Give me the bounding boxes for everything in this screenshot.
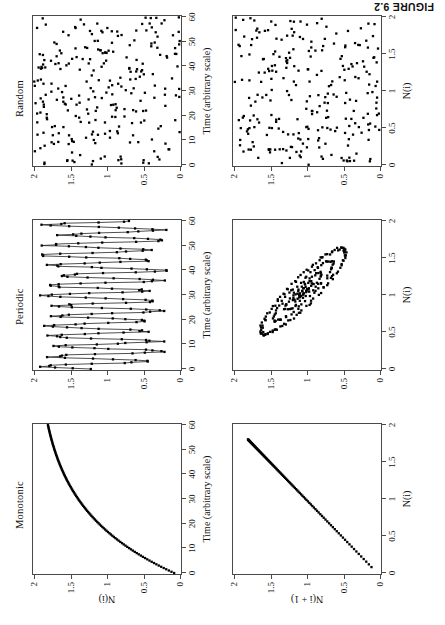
y-tick-mark	[344, 167, 345, 171]
x-tick-label: 30	[187, 291, 197, 300]
plot-area-periodic-timeseries	[32, 219, 182, 371]
x-tick-mark	[382, 220, 386, 221]
y-tick-mark	[34, 575, 35, 579]
x-tick-mark	[182, 572, 186, 573]
y-tick-label: 0.5	[139, 174, 149, 185]
y-tick-label: 2	[229, 174, 239, 179]
x-axis-title: Time (arbitrary scale)	[201, 48, 212, 135]
y-tick-mark	[144, 371, 145, 375]
y-tick-mark	[34, 371, 35, 375]
panel-random-returnmap	[232, 15, 382, 167]
x-tick-label: 10	[187, 136, 197, 145]
panel-title-periodic: Periodic	[14, 288, 25, 325]
x-axis-title: Time (arbitrary scale)	[201, 252, 212, 339]
panel-periodic-timeseries	[32, 219, 182, 371]
y-tick-label: 0	[175, 378, 185, 383]
x-tick-mark	[382, 498, 386, 499]
x-tick-mark	[182, 90, 186, 91]
x-tick-mark	[182, 449, 186, 450]
x-tick-mark	[382, 16, 386, 17]
x-tick-mark	[182, 164, 186, 165]
y-tick-mark	[234, 371, 235, 375]
x-tick-mark	[182, 41, 186, 42]
panel-periodic-returnmap	[232, 219, 382, 371]
x-tick-mark	[182, 343, 186, 344]
x-tick-mark	[182, 294, 186, 295]
y-tick-label: 1	[302, 378, 312, 383]
y-tick-mark	[344, 371, 345, 375]
x-tick-label: 1	[387, 89, 397, 94]
x-tick-label: 0	[387, 571, 397, 576]
x-axis-title: N(i)	[401, 287, 412, 304]
x-tick-mark	[382, 257, 386, 258]
x-tick-mark	[382, 53, 386, 54]
y-tick-mark	[234, 575, 235, 579]
x-tick-label: 1.5	[387, 456, 397, 467]
x-tick-label: 1.5	[387, 252, 397, 263]
y-tick-mark	[307, 167, 308, 171]
x-tick-label: 0	[387, 163, 397, 168]
y-tick-mark	[271, 371, 272, 375]
y-tick-label: 0	[375, 582, 385, 587]
x-tick-label: 0	[187, 163, 197, 168]
y-tick-mark	[380, 167, 381, 171]
y-tick-label: 0.5	[139, 582, 149, 593]
y-tick-label: 0	[175, 174, 185, 179]
x-tick-label: 50	[187, 37, 197, 46]
x-tick-label: 1.5	[387, 48, 397, 59]
x-tick-label: 1	[387, 497, 397, 502]
x-tick-label: 0	[187, 571, 197, 576]
y-tick-label: 2	[29, 174, 39, 179]
y-tick-label: 1	[102, 174, 112, 179]
x-tick-mark	[382, 127, 386, 128]
panel-monotonic-returnmap	[232, 423, 382, 575]
y-tick-mark	[180, 167, 181, 171]
x-tick-label: 60	[187, 217, 197, 226]
y-tick-label: 1.5	[66, 174, 76, 185]
x-tick-mark	[182, 220, 186, 221]
y-tick-label: 0.5	[339, 582, 349, 593]
x-tick-label: 10	[187, 544, 197, 553]
x-tick-mark	[182, 65, 186, 66]
y-tick-mark	[144, 575, 145, 579]
y-tick-mark	[271, 167, 272, 171]
y-tick-label: 2	[29, 582, 39, 587]
y-tick-mark	[271, 575, 272, 579]
x-tick-label: 20	[187, 519, 197, 528]
x-tick-mark	[382, 294, 386, 295]
y-tick-mark	[144, 167, 145, 171]
x-tick-mark	[182, 473, 186, 474]
y-tick-mark	[107, 371, 108, 375]
y-tick-label: 0	[175, 582, 185, 587]
y-tick-mark	[307, 371, 308, 375]
plot-area-monotonic-returnmap	[232, 423, 382, 575]
x-tick-mark	[382, 461, 386, 462]
x-tick-label: 60	[187, 421, 197, 430]
y-tick-label: 0	[375, 174, 385, 179]
x-tick-label: 2	[387, 15, 397, 20]
y-tick-mark	[71, 575, 72, 579]
x-tick-mark	[382, 90, 386, 91]
panel-title-monotonic: Monotonic	[14, 481, 25, 529]
plot-area-random-returnmap	[232, 15, 382, 167]
y-tick-mark	[107, 167, 108, 171]
y-tick-label: 1	[302, 582, 312, 587]
panel-title-random: Random	[14, 80, 25, 117]
y-tick-label: 1.5	[266, 582, 276, 593]
x-tick-mark	[182, 245, 186, 246]
y-tick-label: 1.5	[266, 174, 276, 185]
x-tick-label: 50	[187, 241, 197, 250]
x-tick-mark	[182, 523, 186, 524]
x-tick-mark	[382, 424, 386, 425]
x-tick-mark	[382, 535, 386, 536]
y-axis-title-bottom: N(i + 1)	[291, 594, 323, 605]
x-tick-mark	[382, 164, 386, 165]
x-tick-mark	[182, 547, 186, 548]
y-tick-label: 1.5	[66, 378, 76, 389]
y-tick-mark	[180, 371, 181, 375]
x-tick-mark	[382, 368, 386, 369]
x-tick-mark	[182, 498, 186, 499]
y-tick-label: 2	[229, 582, 239, 587]
y-tick-mark	[71, 167, 72, 171]
x-tick-mark	[182, 319, 186, 320]
